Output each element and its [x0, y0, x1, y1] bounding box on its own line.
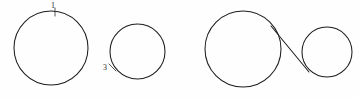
circle-small-right [302, 27, 352, 77]
circle-three [110, 24, 165, 79]
circle-three-label: 3 [103, 63, 107, 72]
circle-one [14, 11, 88, 85]
circle-one-label: 1 [51, 1, 55, 10]
figure-canvas: 1 3 [0, 0, 359, 98]
connector-line [271, 26, 309, 72]
circles-diagram: 1 3 [0, 0, 359, 98]
circle-big-right [205, 11, 281, 87]
